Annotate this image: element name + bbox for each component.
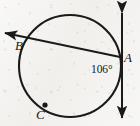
geometry-figure: A B C 106° [0,0,140,126]
label-point-c: C [36,108,45,121]
label-angle-measure: 106° [91,64,112,76]
diagram-canvas [0,0,140,126]
label-point-a: A [124,51,132,64]
label-point-b: B [15,39,23,52]
